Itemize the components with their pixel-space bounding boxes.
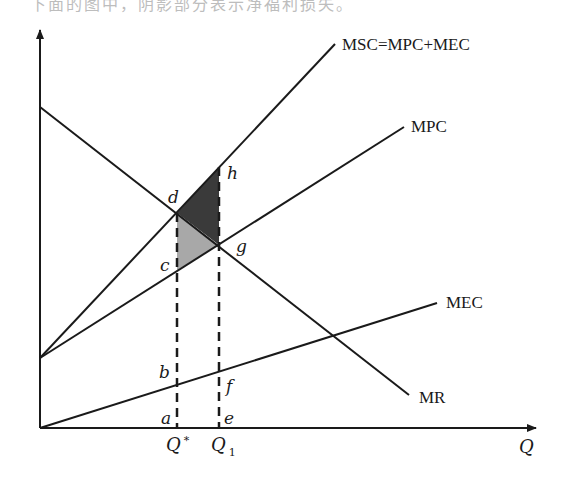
mec-curve	[40, 303, 437, 428]
point-label-d: d	[168, 187, 179, 207]
point-label-a: a	[161, 408, 171, 428]
mec-label: MEC	[446, 293, 483, 312]
point-label-f: f	[224, 376, 235, 396]
mpc-label: MPC	[411, 117, 447, 136]
mpc-curve	[40, 127, 404, 358]
point-label-e: e	[224, 408, 234, 428]
q-star-tick-label: Q*	[166, 434, 190, 455]
x-axis-label: Q	[519, 436, 534, 457]
q1-tick-label: Q1	[211, 434, 236, 459]
mr-curve	[40, 107, 409, 395]
externality-diagram: MSC=MPC+MEC MPC MEC MR d h g c b f a e Q…	[0, 0, 564, 494]
point-label-b: b	[159, 362, 170, 382]
point-label-c: c	[160, 255, 170, 275]
point-label-h: h	[227, 163, 238, 183]
mr-label: MR	[419, 388, 446, 407]
point-label-g: g	[236, 236, 247, 256]
msc-label: MSC=MPC+MEC	[342, 35, 470, 54]
msc-curve	[40, 44, 335, 358]
